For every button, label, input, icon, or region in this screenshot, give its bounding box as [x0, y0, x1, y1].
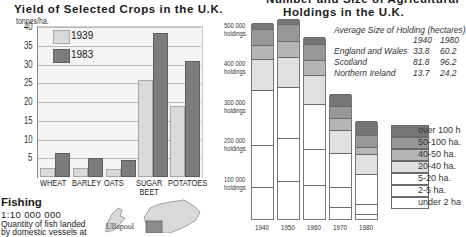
segment-20-40-ha- — [304, 75, 325, 104]
bar-oats-1939 — [106, 169, 121, 177]
segment-2-5-ha- — [252, 145, 273, 187]
crop-y-tick: 30 — [24, 59, 33, 70]
bar-sugar-beet-1939 — [138, 80, 153, 178]
avg-region: Northern Ireland — [334, 68, 395, 78]
segment-over-100-h — [252, 23, 273, 29]
holdings-y-tick: 400 000holdings — [224, 60, 246, 76]
segment-50-100-ha- — [304, 44, 325, 60]
holdings-x-label-1960: 1960 — [307, 223, 321, 232]
legend-label: 40-50 ha. — [418, 149, 456, 159]
holdings-bar-1970 — [329, 95, 352, 220]
crop-chart-title: Yield of Selected Crops in the U.K. — [14, 3, 223, 15]
crop-gridline — [38, 46, 201, 47]
segment-over-100-h — [278, 19, 299, 24]
fishing-title: Fishing — [1, 196, 42, 208]
crop-x-label-potatoes: POTATOES — [168, 178, 207, 187]
segment-under-2-ha — [278, 181, 299, 219]
holdings-x-label-1940: 1940 — [255, 223, 269, 232]
crop-y-tick: 10 — [24, 134, 33, 145]
avg-col-1940: 1940 — [413, 35, 432, 45]
segment-20-40-ha- — [278, 57, 299, 87]
segment-2-5-ha- — [304, 149, 325, 185]
avg-value-1940: 33.8 — [413, 46, 430, 56]
legend-label-1983: 1983 — [71, 49, 93, 60]
holdings-x-label-1950: 1950 — [281, 223, 295, 232]
legend-label: under 2 ha — [418, 197, 461, 207]
fishing-desc-line-2: by domestic vessels at — [1, 228, 87, 236]
crop-x-label-wheat: WHEAT — [40, 178, 66, 187]
holdings-y-tick: 200 000holdings — [224, 137, 246, 153]
segment-40-50-ha- — [356, 147, 377, 154]
segment-5-20-ha- — [330, 153, 351, 187]
segment-40-50-ha- — [330, 118, 351, 130]
legend-label-1939: 1939 — [71, 30, 93, 41]
segment-5-20-ha- — [278, 87, 299, 138]
holdings-y-tick: 300 000holdings — [224, 99, 246, 115]
crop-x-label-barley: BARLEY — [72, 178, 101, 187]
legend-label: 2-5 ha. — [418, 185, 446, 195]
crop-y-tick: 35 — [24, 40, 33, 51]
avg-value-1980: 96.2 — [440, 57, 457, 67]
crop-y-tick: 40 — [24, 21, 33, 32]
segment-under-2-ha — [252, 187, 273, 219]
ullapool-marker — [146, 221, 162, 233]
segment-5-20-ha- — [304, 104, 325, 149]
holdings-y-tick: 500 000holdings — [224, 22, 246, 38]
bar-potatoes-1939 — [170, 106, 185, 177]
segment-20-40-ha- — [330, 130, 351, 153]
segment-5-20-ha- — [252, 90, 273, 145]
legend-label: 20-40 ha. — [418, 161, 456, 171]
avg-value-1940: 13.7 — [413, 68, 430, 78]
segment-2-5-ha- — [330, 187, 351, 207]
avg-col-1980: 1980 — [440, 35, 459, 45]
crop-gridline — [38, 83, 201, 84]
crop-y-tick: 20 — [24, 96, 33, 107]
avg-value-1980: 24.2 — [440, 68, 457, 78]
holdings-title-line-1: Number and Size of Agricultural — [266, 0, 459, 5]
segment-5-20-ha- — [356, 174, 377, 204]
segment-40-50-ha- — [252, 45, 273, 59]
crop-x-label-sugar-beet: SUGARBEET — [136, 178, 162, 196]
segment-20-40-ha- — [252, 59, 273, 90]
map-label-ullapool: Ullapool — [106, 222, 134, 231]
segment-50-100-ha- — [278, 24, 299, 41]
bar-oats-1983 — [121, 160, 136, 177]
fishing-description: Quantity of fish landed by domestic vess… — [1, 220, 87, 236]
crop-gridline — [38, 65, 201, 66]
holdings-bar-1960 — [303, 38, 326, 220]
legend-swatch-1983 — [53, 49, 70, 63]
holdings-bar-1940 — [251, 24, 274, 220]
legend-label: 5-20 ha. — [418, 173, 451, 183]
segment-under-2-ha — [356, 214, 377, 219]
segment-over-100-h — [304, 37, 325, 44]
avg-size-heading: Average Size of Holding (hectares) — [334, 25, 466, 35]
crop-y-tick: 15 — [24, 115, 33, 126]
bar-barley-1983 — [88, 158, 103, 177]
holdings-title-line-2: Holdings in the U.K. — [283, 6, 404, 18]
avg-value-1980: 60.2 — [440, 46, 457, 56]
bar-potatoes-1983 — [185, 61, 200, 177]
holdings-bar-1950 — [277, 20, 300, 220]
legend-label: over 100 h — [418, 125, 461, 135]
segment-50-100-ha- — [356, 135, 377, 147]
crop-gridline — [38, 27, 201, 28]
bar-barley-1939 — [73, 168, 88, 177]
segment-40-50-ha- — [304, 60, 325, 75]
avg-region: England and Wales — [334, 46, 408, 56]
segment-50-100-ha- — [252, 29, 273, 45]
holdings-bar-1980 — [355, 122, 378, 220]
crop-y-tick: 5 — [28, 152, 32, 163]
bar-wheat-1983 — [55, 153, 70, 177]
holdings-x-label-1970: 1970 — [333, 223, 347, 232]
segment-50-100-ha- — [330, 106, 351, 118]
bar-wheat-1939 — [40, 168, 55, 177]
legend-swatch-1939 — [53, 30, 70, 44]
segment-over-100-h — [356, 121, 377, 135]
segment-under-2-ha — [330, 207, 351, 219]
holdings-x-label-1980: 1980 — [359, 223, 373, 232]
holdings-y-tick: 100 000holdings — [224, 176, 246, 192]
avg-value-1940: 81.8 — [413, 57, 430, 67]
avg-region: Scotland — [334, 57, 367, 67]
legend-label: 50-100 ha. — [418, 137, 461, 147]
segment-20-40-ha- — [356, 154, 377, 174]
